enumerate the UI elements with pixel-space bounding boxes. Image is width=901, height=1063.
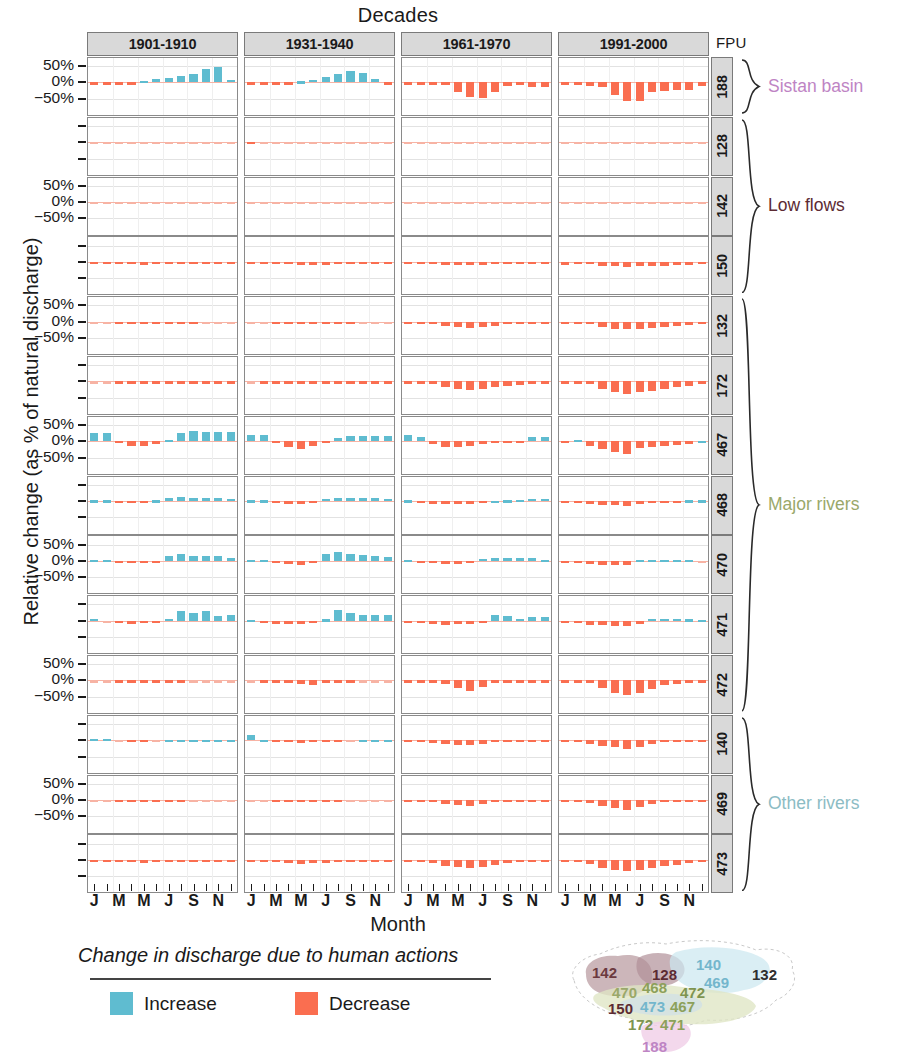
- bar: [247, 560, 255, 562]
- bar: [334, 381, 342, 383]
- y-tick-mark: [78, 739, 86, 741]
- bar: [165, 142, 173, 144]
- bar: [636, 322, 644, 329]
- bar-series: [88, 596, 237, 653]
- bar: [611, 202, 619, 204]
- bar: [404, 680, 412, 682]
- bar: [491, 381, 499, 387]
- bar-series: [245, 118, 394, 175]
- y-tick-mark: [78, 696, 86, 698]
- bar: [466, 680, 474, 690]
- x-tick-label: J: [86, 892, 102, 910]
- bar: [611, 322, 619, 329]
- bar: [503, 381, 511, 385]
- bar: [586, 82, 594, 86]
- bar: [90, 739, 98, 741]
- y-tick-mark: [78, 397, 86, 399]
- bar: [103, 202, 111, 204]
- bar: [503, 740, 511, 742]
- bar: [454, 501, 462, 504]
- decade-strip-1931-1940: 1931-1940: [244, 32, 395, 56]
- bar: [574, 202, 582, 204]
- bar: [322, 554, 330, 561]
- bar: [586, 322, 594, 324]
- bar: [177, 142, 185, 144]
- group-label-sistan-basin: Sistan basin: [768, 76, 863, 97]
- bar: [359, 73, 367, 83]
- bar: [454, 680, 462, 688]
- bar: [140, 860, 148, 863]
- bar: [284, 621, 292, 625]
- x-tick-mark: [276, 884, 277, 891]
- map-region-label-467: 467: [670, 998, 695, 1015]
- bar: [165, 262, 173, 265]
- bar: [491, 142, 499, 144]
- fpu-strip-467: 467: [711, 416, 733, 475]
- bar: [698, 142, 706, 144]
- bar: [189, 498, 197, 501]
- facet-row-128: 128: [87, 117, 737, 176]
- bar: [528, 82, 536, 87]
- bar: [648, 202, 656, 204]
- panel-468-1991-2000: [558, 476, 709, 535]
- panel-469-1991-2000: [558, 775, 709, 834]
- bar: [189, 262, 197, 264]
- panel-150-1961-1970: [401, 236, 552, 295]
- fpu-strip-470: 470: [711, 535, 733, 594]
- map-region-label-142: 142: [592, 964, 617, 981]
- bar: [611, 561, 619, 566]
- bar: [359, 800, 367, 802]
- y-tick-mark: [78, 440, 86, 442]
- bar: [202, 262, 210, 264]
- bar: [598, 262, 606, 266]
- bar: [127, 82, 135, 84]
- facet-row-470: 470: [87, 535, 737, 594]
- bar-series: [402, 776, 551, 833]
- bar: [371, 556, 379, 561]
- bar: [636, 740, 644, 747]
- bar: [586, 441, 594, 446]
- bar: [371, 740, 379, 742]
- facet-row-469: 469: [87, 775, 737, 834]
- brace-low-flows: [740, 119, 762, 294]
- x-tick-mark: [445, 884, 446, 891]
- bar: [611, 680, 619, 693]
- fpu-strip-label: 188: [714, 75, 730, 99]
- map-region-label-469: 469: [704, 974, 729, 991]
- bar: [698, 561, 706, 563]
- facet-row-132: 132: [87, 296, 737, 355]
- decade-strip-1961-1970: 1961-1970: [401, 32, 552, 56]
- bar-series: [402, 656, 551, 713]
- x-tick-mark: [206, 884, 207, 891]
- bar: [272, 381, 280, 383]
- bar: [140, 800, 148, 802]
- x-tick-label: N: [681, 892, 697, 910]
- bar: [260, 500, 268, 502]
- bar: [90, 680, 98, 682]
- bar: [516, 202, 524, 204]
- bar: [103, 142, 111, 144]
- y-tick-mark: [78, 141, 86, 143]
- x-tick-mark: [483, 884, 484, 891]
- x-tick-label: J: [557, 892, 573, 910]
- bar: [165, 78, 173, 83]
- bar: [165, 381, 173, 383]
- bar-series: [88, 536, 237, 593]
- bar: [503, 142, 511, 144]
- bar: [698, 800, 706, 802]
- bar: [528, 680, 536, 682]
- y-tick-mark: [78, 723, 86, 725]
- bar: [297, 740, 305, 743]
- map-region-label-471: 471: [660, 1016, 685, 1033]
- bar: [528, 499, 536, 501]
- bar: [227, 381, 235, 383]
- facet-row-172: 172: [87, 356, 737, 415]
- bar: [115, 621, 123, 624]
- bar: [165, 680, 173, 682]
- bar: [177, 680, 185, 682]
- y-tick-mark: [78, 337, 86, 339]
- bar: [103, 82, 111, 84]
- bar-series: [88, 357, 237, 414]
- x-tick-mark: [351, 884, 352, 891]
- x-tick-label: J: [400, 892, 416, 910]
